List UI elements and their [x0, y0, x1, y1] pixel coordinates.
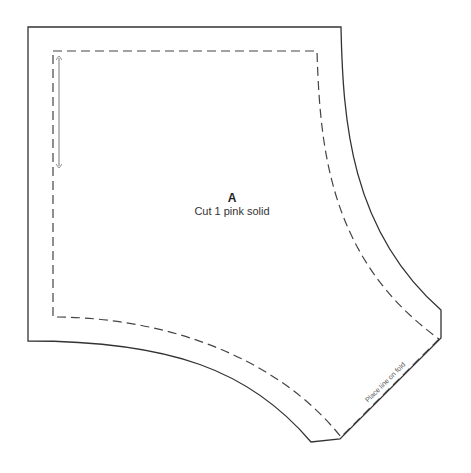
fold-label: Place line on fold	[364, 361, 407, 404]
seam-line	[53, 51, 439, 437]
cutting-line	[28, 27, 441, 442]
piece-instruction: Cut 1 pink solid	[194, 205, 269, 217]
pattern-piece-diagram: A Cut 1 pink solid Place line on fold	[0, 0, 471, 473]
piece-letter: A	[228, 191, 237, 205]
